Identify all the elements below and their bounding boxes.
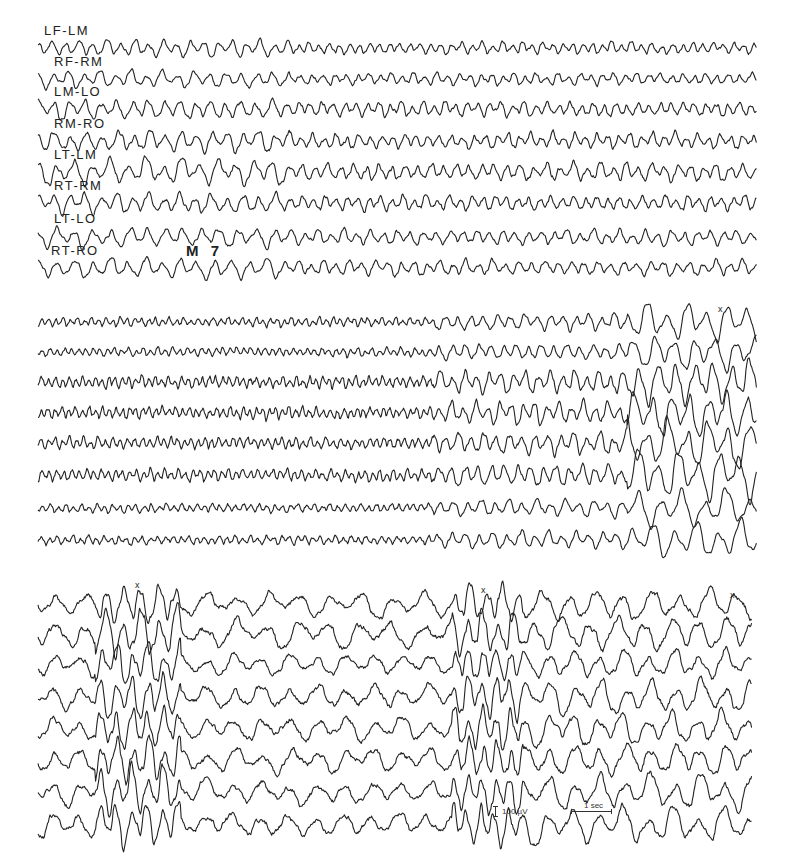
channel-label: LT-LM	[54, 148, 97, 161]
eeg-trace-lm-lo-panel-2	[38, 358, 756, 408]
eeg-trace-lt-lm-panel-2	[38, 415, 756, 469]
eeg-trace-lm-lo-panel-3	[38, 638, 752, 683]
eeg-trace-rf-rm-panel-2	[38, 335, 756, 374]
channel-label: RT-RO	[51, 244, 99, 257]
amplitude-calibration-bar	[495, 806, 496, 817]
time-calibration-label: 1 sec	[584, 802, 603, 810]
time-calibration-bar	[571, 811, 612, 812]
eeg-trace-lm-lo-panel-1	[38, 98, 756, 120]
eeg-trace-rf-rm-panel-1	[38, 69, 756, 91]
eeg-trace-lf-lm-panel-2	[38, 304, 756, 344]
channel-label: LT-LO	[54, 212, 97, 225]
eeg-figure: LF-LMRF-RMLM-LORM-ROLT-LMRT-RMLT-LORT-RO…	[0, 0, 808, 861]
eeg-trace-rt-rm-panel-2	[38, 449, 756, 505]
amplitude-calibration-label: 100 µV	[502, 808, 528, 816]
eeg-trace-rt-ro-panel-3	[38, 802, 752, 852]
event-x-marker: x	[481, 586, 486, 595]
event-x-marker: x	[718, 305, 723, 314]
channel-label: RT-RM	[54, 179, 102, 192]
eeg-trace-lt-lo-panel-3	[38, 761, 752, 817]
eeg-trace-lt-lm-panel-3	[38, 704, 752, 750]
eeg-trace-rm-ro-panel-1	[38, 130, 756, 155]
eeg-trace-rt-rm-panel-3	[38, 735, 752, 785]
eeg-trace-rm-ro-panel-2	[38, 390, 756, 437]
channel-label: RF-RM	[54, 55, 103, 68]
channel-label: LM-LO	[54, 85, 101, 98]
event-x-marker: x	[135, 581, 140, 590]
eeg-trace-rt-ro-panel-1	[38, 257, 756, 281]
event-x-marker: x	[730, 591, 735, 600]
eeg-trace-rt-rm-panel-1	[38, 191, 756, 216]
eeg-trace-lt-lm-panel-1	[38, 156, 756, 187]
channel-label: RM-RO	[54, 117, 106, 130]
channel-label: LF-LM	[44, 24, 89, 37]
marker-label-m7: M 7	[186, 242, 223, 259]
eeg-trace-lt-lo-panel-1	[38, 226, 756, 250]
eeg-trace-lt-lo-panel-2	[38, 488, 756, 530]
eeg-traces	[0, 0, 808, 861]
eeg-trace-lf-lm-panel-1	[38, 38, 756, 58]
